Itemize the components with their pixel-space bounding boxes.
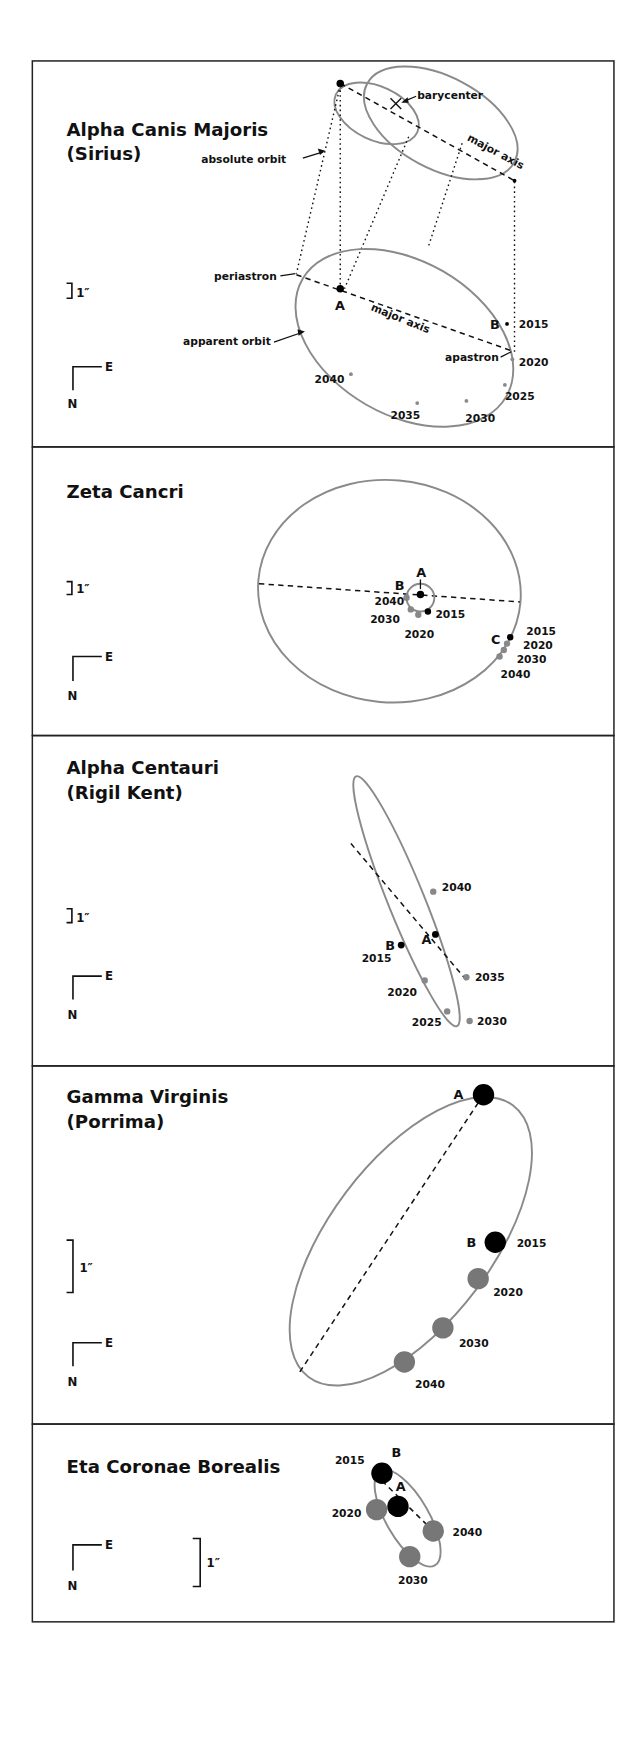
panel-title: Zeta Cancri <box>67 481 184 502</box>
compass-icon <box>73 1545 102 1571</box>
panel-title: Alpha Centauri <box>67 757 219 778</box>
star-b-2030 <box>399 1546 420 1567</box>
star-b-2035 <box>463 974 469 980</box>
star-b-2025 <box>444 1008 450 1014</box>
compass-icon <box>73 1343 102 1367</box>
star-a-label: A <box>416 565 426 580</box>
barycenter-label: barycenter <box>417 89 484 102</box>
year-tick-2020 <box>510 357 514 361</box>
compass-north: N <box>68 397 78 411</box>
year-label-c-2020: 2020 <box>523 639 553 652</box>
star-c-2040 <box>496 653 502 659</box>
projection-line <box>345 137 409 289</box>
compass-north: N <box>68 1579 78 1593</box>
star-a-label: A <box>454 1087 464 1102</box>
scale-bar-icon <box>67 283 72 298</box>
star-b-label: B <box>392 1445 402 1460</box>
star-b-label: B <box>466 1235 476 1250</box>
star-a <box>473 1084 494 1105</box>
year-label-2020: 2020 <box>519 356 549 369</box>
year-label-2020: 2020 <box>493 1286 523 1299</box>
star-b-label: B <box>395 578 405 593</box>
panel-sirius: Alpha Canis Majoris (Sirius) barycenter … <box>32 43 614 463</box>
compass-east: E <box>105 1336 113 1350</box>
year-label-c-2040: 2040 <box>501 668 531 681</box>
scale-label: 1″ <box>207 1556 220 1570</box>
absolute-orbit-label: absolute orbit <box>201 153 286 166</box>
star-c-2020 <box>504 640 510 646</box>
apastron-label: apastron <box>445 351 499 364</box>
year-label-2040: 2040 <box>315 373 345 386</box>
year-tick-2030 <box>464 399 468 403</box>
year-label-2030: 2030 <box>465 412 495 425</box>
star-b <box>398 942 405 949</box>
star-c-label: C <box>491 632 500 647</box>
year-tick-2040 <box>349 372 353 376</box>
star-b-2020 <box>421 977 427 983</box>
year-label-2030: 2030 <box>398 1574 428 1587</box>
major-axis-label-bottom: major axis <box>369 301 432 336</box>
year-label-c-2030: 2030 <box>517 653 547 666</box>
scale-label: 1″ <box>76 911 89 925</box>
year-label-c-2015: 2015 <box>526 625 556 638</box>
panel-title: Gamma Virginis <box>67 1086 229 1107</box>
year-tick-2035 <box>415 401 419 405</box>
apparent-orbit-arrow <box>274 332 302 342</box>
barycenter-marker <box>390 98 401 109</box>
scale-bar-icon <box>193 1538 200 1586</box>
star-b-2030 <box>432 1317 453 1338</box>
star-b-2030 <box>466 1018 472 1024</box>
year-label-2025: 2025 <box>505 390 535 403</box>
year-label-2040: 2040 <box>442 881 472 894</box>
binary-star-orbits-figure: Alpha Canis Majoris (Sirius) barycenter … <box>0 0 642 1748</box>
compass-east: E <box>105 650 113 664</box>
star-b-2015 <box>371 1463 392 1484</box>
star-a <box>417 591 424 598</box>
year-label-2015: 2015 <box>335 1454 365 1467</box>
panel-subtitle: (Sirius) <box>67 143 142 164</box>
panel-eta-crb: Eta Coronae Borealis B 2015 2020 A 2040 … <box>32 1424 614 1622</box>
compass-north: N <box>68 1008 78 1022</box>
compass-east: E <box>105 1538 113 1552</box>
compass-east: E <box>105 360 113 374</box>
star-b-2040 <box>430 888 436 894</box>
scale-bar-icon <box>67 909 72 923</box>
compass-east: E <box>105 969 113 983</box>
year-label-2015: 2015 <box>519 318 549 331</box>
compass-icon <box>73 656 102 681</box>
star-b-2030 <box>408 606 414 612</box>
star-a-label: A <box>335 298 345 313</box>
star-c-2030 <box>501 647 507 653</box>
star-b-2040 <box>403 594 409 600</box>
absolute-orbit-large <box>346 43 536 202</box>
panel-subtitle: (Porrima) <box>67 1111 165 1132</box>
compass-north: N <box>68 1375 78 1389</box>
year-label-2020: 2020 <box>387 986 417 999</box>
periastron-arrow <box>280 274 295 276</box>
star-a-label: A <box>396 1479 406 1494</box>
panel-porrima: Gamma Virginis (Porrima) A B 2015 2020 2… <box>32 1057 614 1426</box>
star-b-2015 <box>425 608 431 614</box>
compass-icon <box>73 976 102 1000</box>
year-label-2030: 2030 <box>477 1015 507 1028</box>
projection-line <box>428 143 462 248</box>
projection-line <box>296 86 340 274</box>
year-tick-2025 <box>503 383 507 387</box>
star-b-2020 <box>467 1268 488 1289</box>
star-b-label: B <box>490 317 500 332</box>
year-label-2025: 2025 <box>412 1016 442 1029</box>
scale-bar-icon <box>67 582 72 595</box>
scale-label: 1″ <box>76 286 89 300</box>
year-label-b-2040: 2040 <box>374 595 404 608</box>
scale-label: 1″ <box>76 582 89 596</box>
year-label-2020: 2020 <box>332 1507 362 1520</box>
panel-alpha-centauri: Alpha Centauri (Rigil Kent) A B 2040 201… <box>32 736 614 1066</box>
scale-bar-icon <box>67 1240 73 1292</box>
star-a <box>387 1496 408 1517</box>
star-a <box>432 931 439 938</box>
year-label-2040: 2040 <box>453 1526 483 1539</box>
star-b <box>505 322 509 326</box>
panel-subtitle: (Rigil Kent) <box>67 782 183 803</box>
year-label-2040: 2040 <box>415 1378 445 1391</box>
year-label-2015: 2015 <box>362 952 392 965</box>
